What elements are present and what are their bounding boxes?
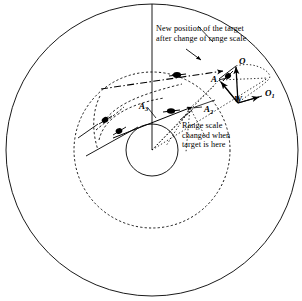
label-wind-w: W bbox=[234, 94, 242, 105]
label-own-ship-o: O bbox=[239, 56, 246, 67]
radar-ppi-figure: New position of the target after change … bbox=[0, 0, 302, 301]
track-line-after-change bbox=[101, 71, 223, 89]
leader-new-position bbox=[186, 49, 201, 60]
track-stub-lower-left bbox=[78, 124, 98, 138]
radar-diagram-svg bbox=[0, 0, 302, 301]
label-target-a: A bbox=[211, 74, 217, 85]
dashed-arc-left bbox=[94, 96, 100, 150]
label-a2-sub: 2 bbox=[210, 108, 213, 115]
track-line-before-change bbox=[113, 107, 192, 138]
label-own-ship-o1: O1 bbox=[265, 88, 275, 99]
label-target-a3: A3 bbox=[139, 101, 148, 112]
target-blip-far-left bbox=[99, 116, 112, 124]
label-o1-base: O bbox=[265, 88, 272, 98]
label-a3-sub: 3 bbox=[145, 105, 148, 112]
label-o1-sub: 1 bbox=[272, 92, 275, 99]
callout-range-scale: Range scale changed when target is here bbox=[182, 121, 230, 150]
label-target-a2: A2 bbox=[204, 104, 213, 115]
track-line-extension bbox=[86, 127, 138, 156]
dashed-track-upper-left bbox=[96, 107, 124, 130]
callout-new-position: New position of the target after change … bbox=[156, 24, 246, 43]
